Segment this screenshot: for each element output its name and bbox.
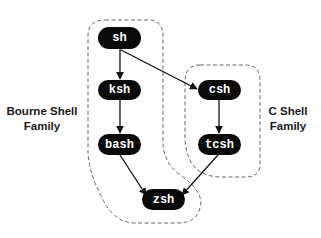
cshell-family-label-line2: Family — [270, 120, 307, 132]
node-label-bash: bash — [105, 138, 134, 152]
node-label-tcsh: tcsh — [205, 138, 234, 152]
bourne-family-label-line2: Family — [24, 120, 61, 132]
edge-bash-zsh — [120, 155, 146, 195]
edge-tcsh-zsh — [182, 155, 218, 195]
node-tcsh: tcsh — [198, 134, 241, 155]
node-label-zsh: zsh — [153, 193, 175, 207]
node-csh: csh — [198, 80, 241, 100]
bourne-family-label-line1: Bourne Shell — [7, 105, 78, 117]
node-label-sh: sh — [112, 31, 126, 45]
node-bash: bash — [98, 134, 141, 155]
node-label-csh: csh — [209, 83, 231, 97]
cshell-family-label: C Shell Family — [269, 105, 308, 132]
node-sh: sh — [98, 27, 141, 49]
node-label-ksh: ksh — [109, 83, 131, 97]
bourne-family-label: Bourne Shell Family — [7, 105, 78, 132]
node-ksh: ksh — [98, 80, 141, 100]
cshell-family-label-line1: C Shell — [269, 105, 308, 117]
node-zsh: zsh — [142, 189, 185, 210]
shell-family-diagram: sh ksh bash csh tcsh zsh Bourne Shell Fa… — [0, 0, 321, 238]
